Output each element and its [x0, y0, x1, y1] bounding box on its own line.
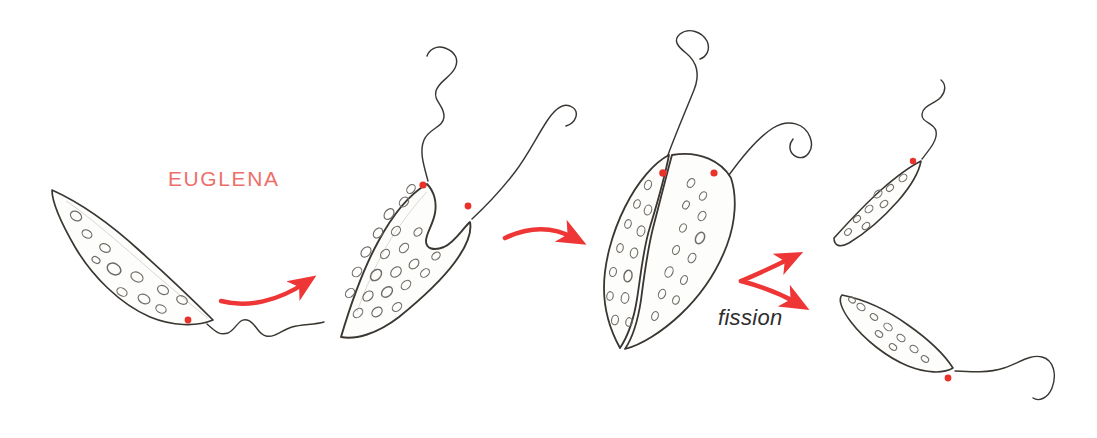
- stage-2-early-division: [341, 47, 576, 338]
- stage-3-cleavage-furrow: [604, 31, 811, 349]
- eyespot-5: [945, 375, 952, 382]
- eyespot-2a: [419, 181, 426, 188]
- arrow-fission-upper: [741, 258, 791, 281]
- fission-arrow-group: [741, 258, 797, 303]
- flagellum-4: [922, 80, 945, 159]
- euglena-title-label: EUGLENA: [168, 167, 280, 191]
- stage-4-daughter-upper: [834, 80, 945, 246]
- flagellum-3b: [729, 123, 811, 175]
- euglena-fission-figure: EUGLENA fission: [0, 0, 1097, 438]
- fission-process-label: fission: [718, 305, 782, 331]
- arrow-fission-lower: [741, 281, 797, 303]
- eyespot-3a: [659, 169, 667, 177]
- flagellum-5: [955, 356, 1054, 399]
- cell-body-outline-2: [341, 184, 470, 338]
- eyespot-3b: [710, 169, 717, 176]
- eyespot-4: [910, 158, 916, 164]
- arrow-stage1-to-stage2: [221, 283, 305, 304]
- flagellum-3a: [668, 31, 708, 155]
- flagellum-2b: [472, 105, 576, 219]
- flagellum-1: [207, 320, 324, 337]
- flagellum-2a: [422, 47, 457, 181]
- arrow-stage2-to-stage3: [505, 229, 574, 238]
- cell-body-outline-4: [834, 161, 921, 246]
- cell-body-outline-1: [52, 190, 213, 325]
- stage-5-daughter-lower: [840, 295, 1054, 400]
- stage-1-single-cell: [52, 190, 324, 336]
- figure-canvas: [0, 0, 1097, 438]
- eyespot-2b: [465, 203, 472, 210]
- eyespot-1: [185, 317, 192, 324]
